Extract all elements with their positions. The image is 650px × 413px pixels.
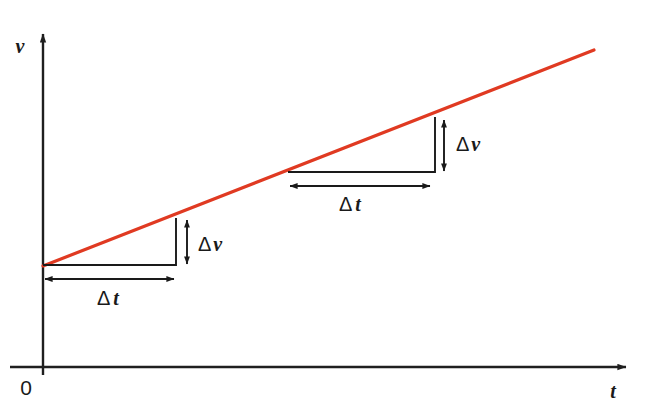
origin-label: 0 (20, 376, 32, 399)
y-axis-label: v (16, 35, 26, 57)
triangle-2-delta-v-label: Δv (456, 133, 481, 155)
triangle-1-delta-v-label: Δv (198, 233, 223, 255)
velocity-time-graph-figure: v t 0 Δv Δt Δv Δt (0, 0, 650, 413)
t-variable: t (113, 287, 120, 309)
triangle-2-legs (288, 117, 435, 172)
x-axis-label: t (610, 380, 617, 402)
v-variable: v (471, 133, 481, 155)
triangle-1-delta-t-label: Δt (97, 287, 120, 309)
velocity-line (43, 50, 594, 266)
delta-symbol: Δ (456, 133, 469, 155)
v-variable: v (213, 233, 223, 255)
triangle-2-delta-t-label: Δt (339, 193, 362, 215)
delta-symbol: Δ (339, 193, 352, 215)
graph-canvas: v t 0 Δv Δt Δv Δt (0, 0, 650, 413)
t-variable: t (355, 193, 362, 215)
axes-group (10, 34, 626, 375)
delta-symbol: Δ (198, 233, 211, 255)
delta-symbol: Δ (97, 287, 110, 309)
